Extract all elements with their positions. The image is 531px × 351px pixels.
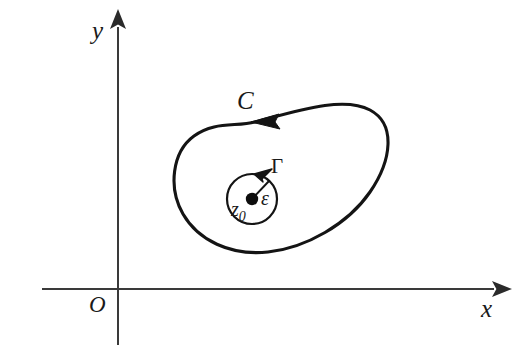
figure-canvas: y x O C Γ ε z0 <box>0 0 531 351</box>
inner-contour-label: Γ <box>271 156 283 177</box>
y-axis-label: y <box>92 18 103 43</box>
radius-label: ε <box>261 188 269 208</box>
center-point-dot <box>246 193 258 205</box>
x-axis-label: x <box>481 296 492 321</box>
axes-group <box>42 27 494 345</box>
outer-contour-group <box>174 104 388 252</box>
outer-contour-path <box>174 104 388 252</box>
origin-label: O <box>89 293 106 316</box>
outer-contour-label: C <box>237 88 254 113</box>
outer-contour-direction-arrow <box>251 114 280 129</box>
center-point-label: z0 <box>231 199 246 224</box>
center-point-label-subscript: 0 <box>239 209 246 224</box>
complex-plane-contour-diagram <box>0 0 531 351</box>
center-point-label-base: z <box>231 198 239 220</box>
